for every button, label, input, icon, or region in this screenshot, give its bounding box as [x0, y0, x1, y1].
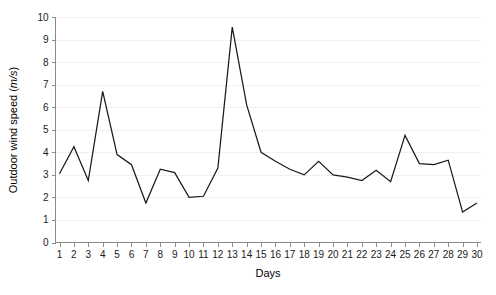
x-axis-tick-label: 27: [428, 249, 440, 260]
y-axis-tick-label: 5: [43, 124, 49, 135]
y-axis-tick-label: 1: [43, 214, 49, 225]
wind-speed-line-chart: 012345678910 123456789101112131415161718…: [0, 0, 496, 295]
x-axis-tick-label: 21: [342, 249, 354, 260]
x-axis-tick-label: 15: [255, 249, 267, 260]
x-axis-tick-label: 3: [86, 249, 92, 260]
x-axis-tick-label: 5: [114, 249, 120, 260]
y-axis-tick-label: 8: [43, 57, 49, 68]
x-axis-tick-label: 30: [471, 249, 483, 260]
x-axis-title: Days: [255, 267, 281, 279]
x-axis-tick-label: 14: [241, 249, 253, 260]
y-axis-title-unit: m/s: [7, 70, 19, 88]
x-axis-tick-label: 2: [71, 249, 77, 260]
x-axis-tick-label: 11: [198, 249, 209, 260]
x-axis-tick-label: 12: [212, 249, 224, 260]
x-axis-tick-label: 25: [399, 249, 411, 260]
y-axis-tick-label: 0: [43, 237, 49, 248]
x-axis-tick-label: 19: [313, 249, 325, 260]
x-axis-tick-label: 18: [299, 249, 311, 260]
x-axis-tick-label: 10: [184, 249, 196, 260]
x-axis-tick-label: 16: [270, 249, 282, 260]
y-axis-tick-label: 3: [43, 169, 49, 180]
y-axis-tick-label: 4: [43, 147, 49, 158]
y-axis-tick-label: 9: [43, 34, 49, 45]
chart-canvas: 012345678910 123456789101112131415161718…: [0, 0, 496, 295]
x-axis-tick-label: 20: [327, 249, 339, 260]
x-axis-tick-label: 4: [100, 249, 106, 260]
y-axis-ticks-group: 012345678910: [37, 12, 55, 249]
y-axis-title-text: Outdoor wind speed (: [7, 88, 19, 194]
gridlines-group: [57, 18, 482, 221]
y-axis-title: Outdoor wind speed (m/s): [7, 67, 19, 194]
y-axis-tick-label: 2: [43, 192, 49, 203]
x-axis-tick-label: 22: [356, 249, 368, 260]
y-axis-tick-label: 6: [43, 102, 49, 113]
x-axis-tick-label: 23: [371, 249, 383, 260]
x-axis-tick-label: 9: [172, 249, 178, 260]
x-axis-ticks-group: 1234567891011121314151617181920212223242…: [57, 243, 483, 260]
y-axis-tick-label: 10: [37, 12, 49, 23]
x-axis-tick-label: 13: [227, 249, 239, 260]
x-axis-tick-label: 28: [443, 249, 455, 260]
x-axis-tick-label: 6: [129, 249, 135, 260]
x-axis-tick-label: 17: [284, 249, 296, 260]
x-axis-tick-label: 24: [385, 249, 397, 260]
x-axis-tick-label: 8: [157, 249, 163, 260]
x-axis-tick-label: 1: [57, 249, 63, 260]
y-axis-title-tail: ): [7, 67, 19, 71]
x-axis-tick-label: 26: [414, 249, 426, 260]
x-axis-tick-label: 7: [143, 249, 149, 260]
y-axis-tick-label: 7: [43, 79, 49, 90]
wind-speed-series-line: [60, 27, 478, 212]
x-axis-tick-label: 29: [457, 249, 469, 260]
